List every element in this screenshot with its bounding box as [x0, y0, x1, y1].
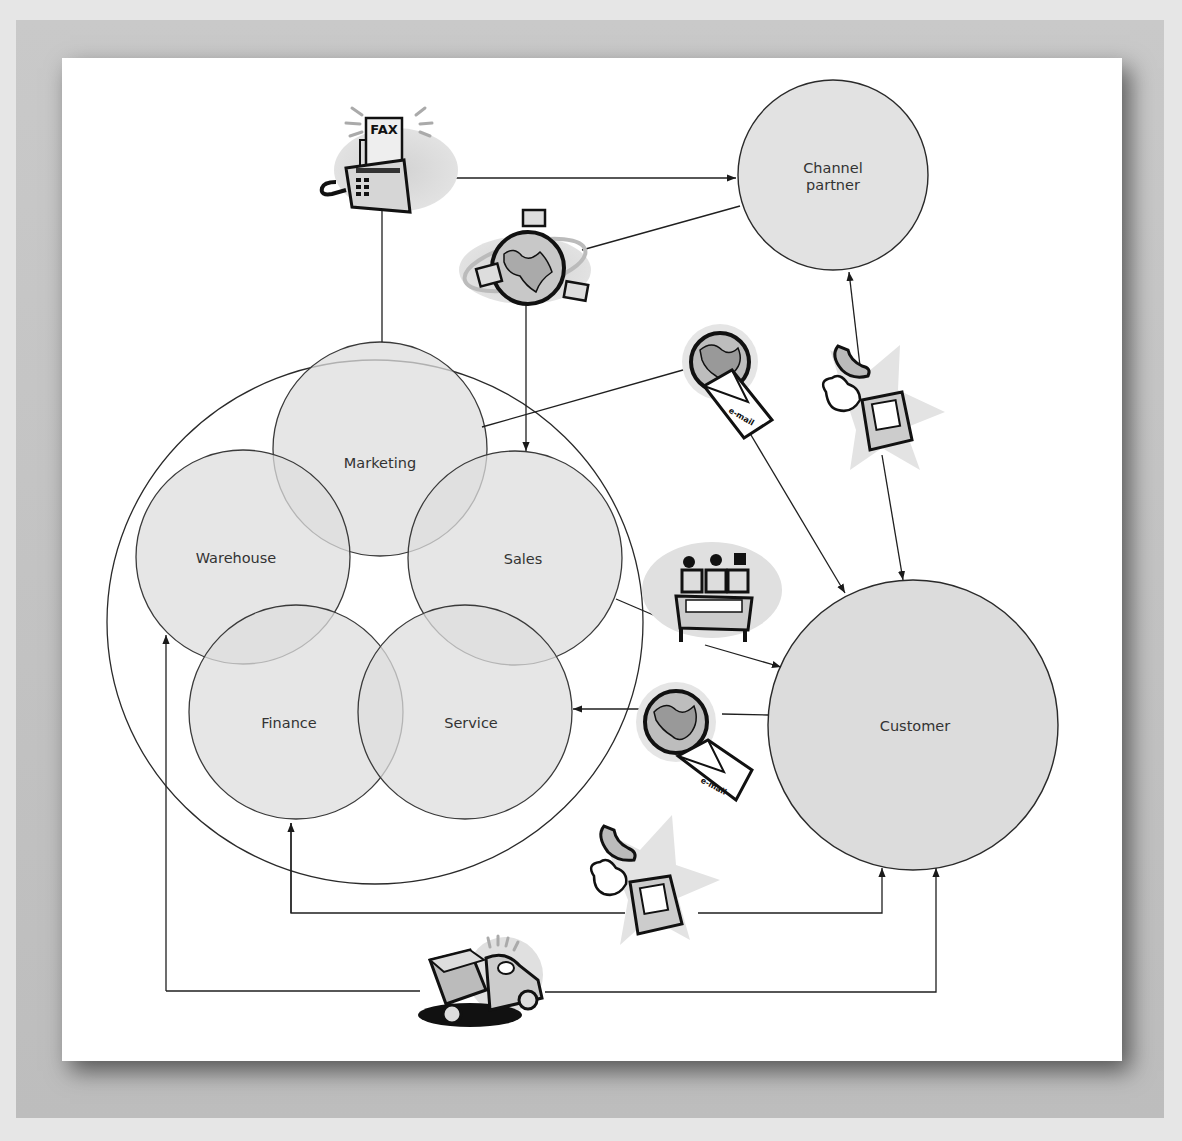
globe-network-icon — [459, 210, 591, 304]
svg-text:FAX: FAX — [370, 122, 397, 137]
channel-partner-label-line2: partner — [803, 177, 863, 194]
warehouse-label: Warehouse — [196, 550, 277, 567]
sales-meeting-icon — [642, 542, 782, 642]
fax-machine-icon: FAX — [322, 108, 458, 212]
service-label: Service — [444, 715, 498, 732]
delivery-truck-icon — [418, 936, 543, 1027]
email-globe-icon-bottom: e-mail — [636, 682, 752, 800]
ringing-phone-icon-bottom — [591, 815, 720, 945]
department-circles — [136, 342, 622, 819]
channel-partner-label-line1: Channel — [803, 160, 863, 177]
finance-label: Finance — [261, 715, 316, 732]
ringing-phone-icon-right — [823, 345, 945, 470]
email-globe-icon-top: e-mail — [682, 324, 772, 438]
customer-label: Customer — [880, 718, 950, 735]
channel-partner-label: Channel partner — [803, 160, 863, 194]
service-circle[interactable] — [358, 605, 572, 819]
crm-diagram: FAX e-mail — [0, 0, 1182, 1141]
marketing-label: Marketing — [344, 455, 416, 472]
sales-label: Sales — [504, 551, 543, 568]
